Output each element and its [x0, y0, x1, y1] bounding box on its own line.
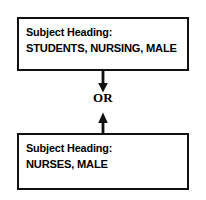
connector-group: OR [0, 70, 206, 134]
subject-heading-box-bottom-content: Subject Heading: NURSES, MALE [26, 141, 181, 171]
subject-heading-label-bottom: Subject Heading: [26, 141, 175, 156]
subject-heading-box-bottom: Subject Heading: NURSES, MALE [17, 133, 189, 190]
or-connector-label: OR [0, 91, 206, 105]
subject-heading-term-bottom: NURSES, MALE [26, 156, 175, 171]
subject-heading-box-top: Subject Heading: STUDENTS, NURSING, MALE [17, 17, 189, 71]
diagram-canvas: Subject Heading: STUDENTS, NURSING, MALE… [0, 0, 206, 200]
arrow-up-icon [98, 113, 108, 135]
subject-heading-box-top-content: Subject Heading: STUDENTS, NURSING, MALE [26, 25, 181, 55]
subject-heading-label-top: Subject Heading: [26, 25, 175, 40]
subject-heading-term-top: STUDENTS, NURSING, MALE [26, 40, 175, 55]
